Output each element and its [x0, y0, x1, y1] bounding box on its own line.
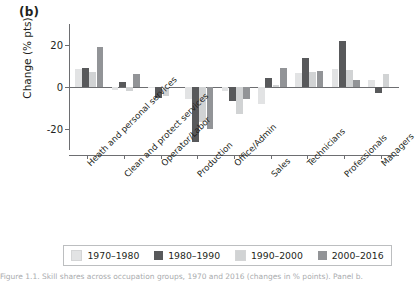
- legend-swatch: [235, 250, 246, 261]
- bar: [89, 72, 96, 87]
- y-tick: [65, 45, 69, 46]
- bar: [236, 87, 243, 114]
- bar: [133, 74, 140, 87]
- bar-group: [75, 24, 104, 150]
- bar: [295, 73, 302, 87]
- bar: [339, 41, 346, 87]
- bar: [97, 47, 104, 87]
- bar: [273, 85, 280, 87]
- bar: [258, 87, 265, 104]
- figure-caption: Figure 1.1. Skill shares across occupati…: [0, 272, 407, 283]
- legend-label: 1990–2000: [251, 250, 303, 261]
- bar: [82, 68, 89, 87]
- bar: [383, 74, 390, 87]
- bar: [375, 87, 382, 93]
- legend-swatch: [154, 251, 163, 260]
- bar: [112, 87, 119, 90]
- y-tick: [65, 87, 69, 88]
- bar: [265, 78, 272, 87]
- x-tick: [197, 155, 198, 159]
- bar: [185, 87, 192, 99]
- bar: [148, 87, 155, 88]
- legend-label: 1970–1980: [87, 250, 139, 261]
- x-tick-label: Sales: [269, 156, 292, 179]
- bar: [368, 80, 375, 87]
- x-tick: [344, 155, 345, 159]
- y-axis-title: Change (% pts): [21, 0, 33, 118]
- legend-label: 1980–1990: [168, 250, 220, 261]
- bar-group: [295, 24, 324, 150]
- bar-group: [222, 24, 251, 150]
- bar: [353, 80, 360, 87]
- legend: 1970–19801980–19901990–20002000–2016: [63, 245, 392, 266]
- bar: [222, 87, 229, 91]
- bar: [280, 68, 287, 87]
- bar: [317, 71, 324, 87]
- bar: [126, 87, 133, 91]
- legend-item: 2000–2016: [318, 250, 384, 261]
- legend-item: 1980–1990: [154, 250, 220, 261]
- bar: [243, 87, 250, 99]
- bar: [75, 69, 82, 87]
- bar: [119, 82, 126, 87]
- bar: [302, 58, 309, 87]
- bar: [346, 70, 353, 87]
- y-tick: [65, 129, 69, 130]
- x-tick: [271, 155, 272, 159]
- x-tick: [124, 155, 125, 159]
- bar: [309, 72, 316, 87]
- y-tick-label: -20: [47, 124, 63, 135]
- bar: [332, 69, 339, 87]
- bar: [229, 87, 236, 101]
- legend-swatch: [318, 251, 327, 260]
- bar-group: [368, 24, 397, 150]
- y-tick-label: 0: [57, 82, 63, 93]
- legend-item: 1990–2000: [235, 250, 303, 261]
- legend-item: 1970–1980: [71, 250, 139, 261]
- legend-label: 2000–2016: [332, 250, 384, 261]
- y-tick-label: 20: [50, 40, 63, 51]
- legend-swatch: [71, 250, 82, 261]
